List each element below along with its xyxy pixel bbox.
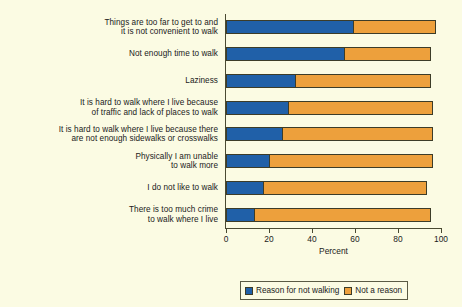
bar-segment-reason — [226, 127, 283, 141]
x-tick-label: 40 — [297, 234, 327, 244]
bar-segment-reason — [226, 101, 289, 115]
category-label: It is hard to walk where I live because … — [2, 98, 218, 117]
bar-segment-reason — [226, 181, 264, 195]
category-label: There is too much crime to walk where I … — [2, 205, 218, 224]
legend-item[interactable]: Reason for not walking — [245, 286, 339, 295]
plot-area: 020406080100 Percent — [226, 14, 441, 228]
x-tick-mark — [312, 229, 313, 233]
bar-segment-reason — [226, 20, 354, 34]
category-label: Things are too far to get to and it is n… — [2, 18, 218, 37]
x-tick-label: 60 — [340, 234, 370, 244]
x-tick-mark — [269, 229, 270, 233]
x-tick-mark — [226, 229, 227, 233]
bar-segment-not-a-reason — [269, 154, 433, 168]
category-axis-labels: Things are too far to get to and it is n… — [0, 14, 222, 228]
x-axis-line — [225, 228, 442, 229]
bar-segment-not-a-reason — [254, 208, 431, 222]
category-label: It is hard to walk where I live because … — [2, 125, 218, 144]
legend-swatch-icon — [245, 287, 253, 295]
bar-segment-not-a-reason — [263, 181, 427, 195]
bar-segment-not-a-reason — [288, 101, 433, 115]
category-label: I do not like to walk — [2, 183, 218, 193]
bar-segment-reason — [226, 208, 255, 222]
category-label: Not enough time to walk — [2, 49, 218, 59]
chart-legend: Reason for not walkingNot a reason — [240, 281, 408, 300]
bar-segment-not-a-reason — [353, 20, 436, 34]
bar-segment-reason — [226, 47, 345, 61]
stacked-bar-chart: Things are too far to get to and it is n… — [0, 0, 462, 307]
bar-segment-not-a-reason — [282, 127, 434, 141]
x-tick-mark — [441, 229, 442, 233]
x-tick-label: 100 — [426, 234, 456, 244]
legend-label: Not a reason — [355, 286, 402, 295]
category-label: Physically I am unable to walk more — [2, 152, 218, 171]
x-tick-mark — [355, 229, 356, 233]
x-tick-mark — [398, 229, 399, 233]
bar-segment-not-a-reason — [344, 47, 431, 61]
x-tick-label: 20 — [254, 234, 284, 244]
x-tick-label: 80 — [383, 234, 413, 244]
category-label: Laziness — [2, 76, 218, 86]
x-tick-label: 0 — [211, 234, 241, 244]
bar-segment-reason — [226, 154, 270, 168]
legend-swatch-icon — [344, 287, 352, 295]
bar-segment-not-a-reason — [295, 74, 431, 88]
x-axis-title: Percent — [226, 246, 441, 256]
legend-label: Reason for not walking — [256, 286, 339, 295]
legend-item[interactable]: Not a reason — [344, 286, 402, 295]
bar-segment-reason — [226, 74, 296, 88]
